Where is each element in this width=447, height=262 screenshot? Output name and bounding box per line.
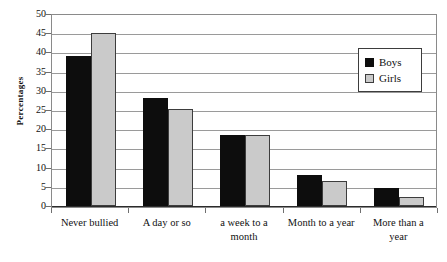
bar-boys[interactable] [220, 135, 245, 206]
bar-boys[interactable] [374, 188, 399, 206]
bar-girls[interactable] [322, 181, 347, 206]
x-axis-category-label: a week to amonth [205, 216, 282, 244]
bar-girls[interactable] [245, 135, 270, 206]
bar-girls[interactable] [399, 197, 424, 206]
x-axis-tick-mark [51, 208, 52, 213]
plot-area [51, 14, 437, 208]
y-axis-tick-label: 30 [24, 86, 46, 96]
bar-group [374, 14, 424, 206]
y-axis-tick-label: 10 [24, 163, 46, 173]
axis-baseline [52, 206, 436, 207]
x-axis-category-label: Month to a year [283, 216, 360, 230]
bar-boys[interactable] [143, 98, 168, 206]
bar-boys[interactable] [297, 175, 322, 206]
y-axis-tick-label: 0 [24, 201, 46, 211]
legend-swatch-boys-icon [365, 58, 374, 67]
bar-group [66, 14, 116, 206]
bar-group [297, 14, 347, 206]
legend-label-boys: Boys [379, 57, 402, 68]
x-axis-category-label: More than ayear [360, 216, 437, 244]
y-axis-tick-label: 15 [24, 143, 46, 153]
legend: Boys Girls [358, 48, 422, 92]
x-axis-tick-mark [437, 208, 438, 213]
bar-girls[interactable] [91, 33, 116, 206]
x-axis-tick-mark [360, 208, 361, 213]
bar-group [143, 14, 193, 206]
y-axis-tick-label: 35 [24, 67, 46, 77]
x-axis-category-label: Never bullied [51, 216, 128, 230]
bar-chart: Percentages 05101520253035404550 Never b… [0, 0, 447, 262]
y-axis-tick-label: 25 [24, 105, 46, 115]
x-axis-category-label: A day or so [128, 216, 205, 230]
bar-girls[interactable] [168, 109, 193, 206]
y-axis-tick-label: 20 [24, 124, 46, 134]
bar-boys[interactable] [66, 56, 91, 206]
legend-item-girls[interactable]: Girls [365, 70, 417, 86]
y-axis-tick-label: 5 [24, 182, 46, 192]
x-axis-tick-mark [205, 208, 206, 213]
legend-item-boys[interactable]: Boys [365, 54, 417, 70]
x-axis-tick-mark [128, 208, 129, 213]
bar-group [220, 14, 270, 206]
legend-label-girls: Girls [379, 73, 401, 84]
y-axis-tick-label: 45 [24, 28, 46, 38]
legend-swatch-girls-icon [365, 74, 374, 83]
y-axis-tick-label: 50 [24, 9, 46, 19]
x-axis-tick-mark [283, 208, 284, 213]
y-axis-tick-label: 40 [24, 47, 46, 57]
